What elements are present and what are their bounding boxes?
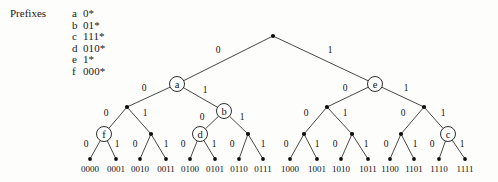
trie-edge (109, 108, 126, 128)
trie-leaf-label: 1101 (405, 164, 423, 174)
trie-leaf-label: 0000 (81, 164, 100, 174)
trie-edge (205, 116, 218, 129)
trie-edge (184, 88, 218, 108)
trie-edge-bit-label: 0 (384, 139, 389, 149)
trie-leaf-node (388, 157, 392, 161)
trie-edge-bit-label: 0 (333, 139, 338, 149)
trie-leaf-label: 0001 (107, 164, 125, 174)
trie-edge-bit-label: 0 (84, 139, 89, 149)
trie-leaf-labels: 0000000100100011010001010110011110001001… (81, 164, 474, 174)
trie-leaf-label: 0100 (181, 164, 200, 174)
trie-leaf-node (288, 157, 292, 161)
trie-edge (328, 87, 368, 106)
trie-edge (141, 135, 151, 157)
trie-prefix-node-label: e (373, 79, 378, 90)
trie-edge-bit-label: 0 (104, 108, 109, 118)
trie-edge (328, 108, 351, 133)
trie-prefix-node-label: d (197, 129, 203, 140)
trie-internal-node (125, 105, 129, 109)
trie-edge-bit-label: 0 (284, 139, 289, 149)
trie-leaf-label: 1111 (457, 164, 474, 174)
trie-internal-node (422, 105, 426, 109)
trie-edge-bit-label: 1 (164, 139, 169, 149)
trie-leaf-node (138, 157, 142, 161)
trie-prefix-node-label: c (446, 129, 451, 140)
trie-edge-bit-label: 1 (343, 108, 348, 118)
trie-leaf-node (114, 157, 118, 161)
trie-edge-bit-label: 0 (230, 139, 235, 149)
trie-leaf-node (88, 157, 92, 161)
trie-edge (342, 135, 352, 157)
trie-edge-bit-label: 1 (203, 85, 208, 95)
trie-prefix-node-label: b (221, 106, 226, 117)
trie-leaf-label: 1110 (430, 164, 448, 174)
trie-edge (391, 135, 401, 157)
trie-edge-bit-label: 0 (200, 112, 205, 122)
trie-edge-bit-label: 0 (304, 108, 309, 118)
trie-leaf-node (237, 157, 241, 161)
trie-edge-bit-label: 1 (460, 139, 465, 149)
trie-leaf-node (463, 157, 467, 161)
trie-edge-bit-label: 0 (216, 45, 221, 55)
trie-prefix-node-label: f (102, 129, 106, 140)
trie-leaf-node (164, 157, 168, 161)
trie-edge-bit-label: 1 (315, 139, 320, 149)
trie-edge (240, 135, 248, 157)
trie-leaf-label: 1010 (332, 164, 351, 174)
trie-edge (274, 37, 368, 81)
trie-edge-bit-label: 1 (240, 112, 245, 122)
trie-leaf-label: 1001 (308, 164, 326, 174)
trie-edge (440, 141, 446, 158)
trie-internal-node (149, 132, 153, 136)
trie-edge (291, 135, 304, 157)
trie-edge-bit-label: 0 (343, 83, 348, 93)
trie-internal-node (325, 105, 329, 109)
trie-edge-bit-label: 0 (181, 139, 186, 149)
trie-internal-node (302, 132, 306, 136)
trie-leaf-label: 0011 (157, 164, 175, 174)
trie-edge-bit-label: 0 (142, 83, 147, 93)
trie-internal-node (246, 132, 250, 136)
trie-edge-bit-label: 1 (115, 139, 120, 149)
trie-edge-bit-label: 1 (212, 139, 217, 149)
trie-leaf-label: 1100 (381, 164, 399, 174)
trie-leaf-label: 1000 (281, 164, 300, 174)
trie-leaf-node (437, 157, 441, 161)
trie-edge-bit-label: 0 (133, 139, 138, 149)
trie-leaf-label: 0110 (230, 164, 248, 174)
trie-edge-bit-label: 1 (413, 139, 418, 149)
binary-trie: 010101010101010101010101010101 aebfdc 00… (0, 0, 498, 182)
trie-edge-bit-label: 1 (364, 139, 369, 149)
trie-nodes: aebfdc (88, 34, 467, 161)
trie-leaf-node (339, 157, 343, 161)
trie-leaf-node (315, 157, 319, 161)
trie-edges (91, 37, 464, 158)
trie-edge (91, 141, 101, 158)
trie-leaf-node (213, 157, 217, 161)
trie-edge (128, 87, 170, 106)
trie-edge-bit-label: 1 (441, 108, 446, 118)
trie-edge (184, 37, 272, 81)
trie-edge-bit-label: 0 (401, 108, 406, 118)
trie-edge (382, 87, 423, 106)
trie-edge-bit-label: 1 (328, 45, 333, 55)
trie-leaf-label: 0101 (206, 164, 224, 174)
trie-leaf-node (261, 157, 265, 161)
trie-edge-labels: 010101010101010101010101010101 (84, 45, 465, 149)
trie-internal-node (271, 34, 275, 38)
trie-edge-bit-label: 1 (143, 108, 148, 118)
trie-prefix-node-label: a (175, 79, 180, 90)
trie-internal-node (350, 132, 354, 136)
trie-edge (191, 141, 198, 158)
trie-leaf-label: 0111 (254, 164, 271, 174)
figure-canvas: Prefixes a0*b01*c111*d010*e1*f000* 01010… (0, 0, 498, 182)
trie-edge-bit-label: 0 (430, 139, 435, 149)
trie-edge-bit-label: 1 (404, 83, 409, 93)
trie-leaf-label: 0010 (131, 164, 150, 174)
trie-edge-bit-label: 1 (261, 139, 266, 149)
trie-leaf-node (412, 157, 416, 161)
trie-leaf-node (188, 157, 192, 161)
trie-leaf-node (366, 157, 370, 161)
trie-leaf-label: 1011 (359, 164, 377, 174)
trie-edge (402, 135, 414, 157)
